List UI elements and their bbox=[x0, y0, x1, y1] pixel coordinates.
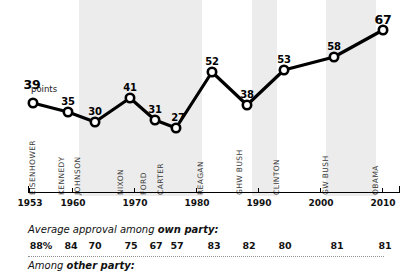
own-party-caption-prefix: Average approval among bbox=[28, 224, 158, 235]
president-label: CLINTON bbox=[272, 159, 281, 195]
x-axis-tick bbox=[258, 188, 259, 193]
president-label: JOHNSON bbox=[73, 157, 82, 195]
own-party-value: 70 bbox=[88, 240, 101, 251]
x-axis-tick bbox=[29, 188, 30, 193]
president-label: CARTER bbox=[156, 163, 165, 195]
data-point-marker[interactable] bbox=[208, 68, 216, 76]
own-party-value: 82 bbox=[242, 240, 255, 251]
plot-area: 3935304131275238535867 points EISENHOWER… bbox=[0, 0, 416, 196]
x-axis-tick-label: 1980 bbox=[184, 198, 209, 208]
own-party-caption-bold: own party: bbox=[158, 224, 219, 235]
own-party-value: 75 bbox=[124, 240, 137, 251]
x-axis-tick-label: 1970 bbox=[122, 198, 147, 208]
own-party-value: 81 bbox=[378, 240, 391, 251]
x-axis-tick bbox=[72, 188, 73, 193]
data-point-marker[interactable] bbox=[243, 101, 251, 109]
data-point-marker[interactable] bbox=[29, 99, 37, 107]
own-party-value: 83 bbox=[207, 240, 220, 251]
x-axis-tick bbox=[196, 188, 197, 193]
other-party-caption: Among other party: bbox=[28, 260, 135, 271]
data-point-value-label: 67 bbox=[375, 12, 392, 27]
own-party-value: 67 bbox=[149, 240, 162, 251]
x-axis-line bbox=[28, 192, 400, 193]
data-point-value-label: 53 bbox=[277, 54, 291, 65]
data-point-value-label: 58 bbox=[327, 41, 341, 52]
data-point-value-label: 30 bbox=[88, 106, 102, 117]
x-axis-tick bbox=[320, 188, 321, 193]
data-point-marker[interactable] bbox=[151, 116, 159, 124]
data-point-value-label: 27 bbox=[171, 112, 185, 123]
x-axis-right-cap bbox=[399, 186, 400, 193]
data-point-marker[interactable] bbox=[91, 118, 99, 126]
x-axis-tick-label: 2010 bbox=[370, 198, 395, 208]
president-label: OBAMA bbox=[371, 165, 380, 195]
data-point-marker[interactable] bbox=[280, 66, 288, 74]
own-party-caption: Average approval among own party: bbox=[28, 224, 219, 235]
x-axis-tick-label: 2000 bbox=[308, 198, 333, 208]
data-point-marker[interactable] bbox=[172, 124, 180, 132]
own-party-value: 57 bbox=[170, 240, 183, 251]
data-point-value-label: 38 bbox=[240, 89, 254, 100]
president-label: KENNEDY bbox=[57, 157, 66, 195]
x-axis-tick bbox=[382, 188, 383, 193]
data-point-value-label: 31 bbox=[148, 104, 162, 115]
x-axis-tick-label: 1953 bbox=[17, 198, 42, 208]
data-point-value-label: 35 bbox=[61, 96, 75, 107]
data-point-value-label: 52 bbox=[205, 56, 219, 67]
president-label: GHW BUSH bbox=[235, 150, 244, 196]
x-axis-tick-label: 1990 bbox=[246, 198, 271, 208]
data-point-value-label: 41 bbox=[123, 82, 137, 93]
x-axis-tick bbox=[134, 188, 135, 193]
own-party-value: 80 bbox=[278, 240, 291, 251]
own-party-value: 88% bbox=[30, 240, 53, 251]
own-party-value-row: 88%84707567578382808181 bbox=[0, 240, 416, 254]
other-party-caption-bold: other party: bbox=[67, 260, 135, 271]
own-party-value: 84 bbox=[64, 240, 77, 251]
own-party-value: 81 bbox=[330, 240, 343, 251]
data-point-marker[interactable] bbox=[64, 108, 72, 116]
footer-divider bbox=[28, 256, 384, 257]
approval-gap-chart: 3935304131275238535867 points EISENHOWER… bbox=[0, 0, 416, 274]
data-point-marker[interactable] bbox=[330, 53, 338, 61]
data-point-marker[interactable] bbox=[126, 94, 134, 102]
president-label: GW BUSH bbox=[321, 156, 330, 195]
x-axis-tick-label: 1960 bbox=[60, 198, 85, 208]
data-point-marker[interactable] bbox=[379, 26, 387, 34]
points-unit-label: points bbox=[31, 84, 57, 94]
president-label: EISENHOWER bbox=[28, 140, 37, 195]
president-label: REAGAN bbox=[196, 161, 205, 195]
other-party-caption-prefix: Among bbox=[28, 260, 67, 271]
